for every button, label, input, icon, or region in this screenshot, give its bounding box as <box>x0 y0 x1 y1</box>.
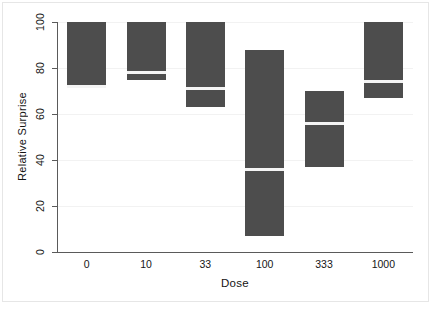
bar-median-line <box>127 71 166 74</box>
bar-median-line <box>67 85 106 88</box>
x-tick-label: 333 <box>315 258 333 270</box>
gridline <box>57 22 413 23</box>
bar <box>186 22 225 107</box>
x-tick-label: 1000 <box>372 258 395 270</box>
x-axis-line <box>57 252 413 253</box>
bar-median-line <box>245 168 284 171</box>
y-tick-label: 100 <box>34 10 46 34</box>
plot-wrapper: Relative Surprise 020406080100 010331003… <box>0 0 431 322</box>
y-tick-label: 0 <box>34 240 46 264</box>
figure-container: Relative Surprise 020406080100 010331003… <box>0 0 431 322</box>
bar-median-line <box>305 122 344 125</box>
y-tick-label: 20 <box>34 194 46 218</box>
bar-median-line <box>186 87 225 90</box>
y-axis-title: Relative Surprise <box>14 22 30 252</box>
bar <box>364 22 403 98</box>
gridline <box>57 68 413 69</box>
x-tick-label: 33 <box>199 258 211 270</box>
y-axis-line <box>57 22 58 252</box>
x-tick-label: 10 <box>140 258 152 270</box>
y-tick-label: 40 <box>34 148 46 172</box>
bar <box>245 50 284 236</box>
y-tick-label: 80 <box>34 56 46 80</box>
x-tick-label: 100 <box>256 258 274 270</box>
x-tick-label: 0 <box>84 258 90 270</box>
bar <box>67 22 106 86</box>
y-tick-label: 60 <box>34 102 46 126</box>
gridline <box>57 114 413 115</box>
gridline <box>57 206 413 207</box>
gridline <box>57 160 413 161</box>
x-axis-title: Dose <box>57 277 413 289</box>
bar-median-line <box>364 80 403 83</box>
bar <box>305 91 344 167</box>
